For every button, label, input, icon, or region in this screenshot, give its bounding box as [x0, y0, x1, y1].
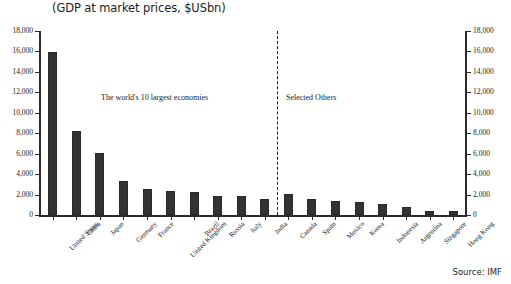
- x-tick-6: [194, 216, 195, 220]
- y-tick-label-left-8000: 8,000: [16, 129, 33, 137]
- x-label-korea: Korea: [368, 220, 386, 238]
- y-tick-label-left-4000: 4,000: [16, 170, 33, 178]
- y-tick-label-right-4000: 4,000: [473, 170, 490, 178]
- bar-spain: [307, 199, 316, 215]
- x-label-hong-kong: Hong Kong: [467, 220, 496, 249]
- y-tick-label-right-6000: 6,000: [473, 150, 490, 158]
- x-tick-9: [265, 216, 266, 220]
- y-tick-label-right-0: 0: [473, 211, 477, 219]
- x-tick-10: [288, 216, 289, 220]
- bar-germany: [119, 181, 128, 215]
- bar-china: [72, 131, 81, 215]
- y-tick-label-left-14000: 14,000: [12, 68, 33, 76]
- y-tick-label-right-10000: 10,000: [473, 109, 494, 117]
- x-tick-14: [383, 216, 384, 220]
- x-label-germany: Germany: [135, 220, 159, 244]
- x-label-canada: Canada: [298, 220, 319, 241]
- y-tick-right-4000: [467, 174, 471, 175]
- plot-area: 02,0004,0006,0008,00010,00012,00014,0001…: [41, 31, 465, 215]
- annotation-largest-economies: The world's 10 largest economies: [101, 93, 208, 102]
- y-tick-left-6000: [35, 154, 39, 155]
- y-tick-right-10000: [467, 113, 471, 114]
- y-tick-left-18000: [35, 31, 39, 32]
- bar-korea: [355, 202, 364, 215]
- x-label-france: France: [157, 220, 176, 239]
- x-tick-5: [171, 216, 172, 220]
- x-tick-0: [53, 216, 54, 220]
- y-tick-right-16000: [467, 51, 471, 52]
- source-note: Source: IMF: [453, 267, 503, 277]
- annotation-selected-others: Selected Others: [286, 93, 336, 102]
- x-label-singapore: Singapore: [442, 220, 468, 246]
- x-label-china: China: [85, 220, 102, 237]
- bar-france: [143, 189, 152, 215]
- y-tick-label-right-2000: 2,000: [473, 191, 490, 199]
- y-tick-right-8000: [467, 133, 471, 134]
- x-label-india: India: [273, 220, 289, 236]
- y-tick-label-right-12000: 12,000: [473, 89, 494, 97]
- y-tick-left-10000: [35, 113, 39, 114]
- bar-canada: [284, 194, 293, 215]
- y-tick-right-2000: [467, 195, 471, 196]
- x-tick-15: [406, 216, 407, 220]
- bar-hong-kong: [449, 211, 458, 215]
- y-tick-left-4000: [35, 174, 39, 175]
- x-label-russia: Russia: [227, 220, 246, 239]
- x-label-spain: Spain: [321, 220, 338, 237]
- y-tick-label-left-0: 0: [29, 211, 33, 219]
- y-tick-left-2000: [35, 195, 39, 196]
- y-tick-label-left-6000: 6,000: [16, 150, 33, 158]
- chart-title: (GDP at market prices, $USbn): [52, 1, 226, 15]
- x-tick-4: [147, 216, 148, 220]
- x-label-italy: Italy: [249, 220, 264, 235]
- y-tick-right-18000: [467, 31, 471, 32]
- y-tick-label-left-10000: 10,000: [12, 109, 33, 117]
- bar-united-kingdom: [166, 191, 175, 215]
- x-tick-1: [76, 216, 77, 220]
- y-tick-label-right-14000: 14,000: [473, 68, 494, 76]
- bar-argentina: [402, 207, 411, 215]
- y-tick-label-left-2000: 2,000: [16, 191, 33, 199]
- bar-mexico: [331, 201, 340, 215]
- bar-italy: [237, 196, 246, 215]
- y-tick-left-16000: [35, 51, 39, 52]
- y-tick-right-12000: [467, 92, 471, 93]
- y-tick-left-8000: [35, 133, 39, 134]
- x-axis-line: [39, 215, 467, 217]
- y-tick-left-14000: [35, 72, 39, 73]
- bar-russia: [213, 196, 222, 215]
- x-tick-3: [123, 216, 124, 220]
- x-label-mexico: Mexico: [346, 220, 367, 241]
- x-tick-7: [218, 216, 219, 220]
- y-axis-right-line: [465, 31, 467, 215]
- y-tick-right-0: [467, 215, 471, 216]
- x-label-argentina: Argentina: [418, 220, 443, 245]
- y-tick-label-right-16000: 16,000: [473, 48, 494, 56]
- bar-united-states: [48, 52, 57, 215]
- y-tick-left-12000: [35, 92, 39, 93]
- x-label-indonesia: Indonesia: [395, 220, 420, 245]
- bar-india: [260, 199, 269, 215]
- group-divider: [277, 31, 278, 215]
- y-tick-label-left-18000: 18,000: [12, 27, 33, 35]
- bar-series: [41, 31, 465, 215]
- y-tick-label-left-12000: 12,000: [12, 89, 33, 97]
- bar-japan: [95, 153, 104, 215]
- x-tick-16: [430, 216, 431, 220]
- bar-indonesia: [378, 204, 387, 215]
- y-tick-left-0: [35, 215, 39, 216]
- x-tick-12: [335, 216, 336, 220]
- y-tick-right-6000: [467, 154, 471, 155]
- y-tick-right-14000: [467, 72, 471, 73]
- x-label-japan: Japan: [109, 220, 126, 237]
- y-tick-label-right-8000: 8,000: [473, 129, 490, 137]
- chart-figure: (GDP at market prices, $USbn) 02,0004,00…: [0, 0, 511, 284]
- bar-singapore: [425, 211, 434, 215]
- x-tick-2: [100, 216, 101, 220]
- y-tick-label-right-18000: 18,000: [473, 27, 494, 35]
- bar-brazil: [190, 192, 199, 215]
- y-tick-label-left-16000: 16,000: [12, 48, 33, 56]
- x-tick-17: [453, 216, 454, 220]
